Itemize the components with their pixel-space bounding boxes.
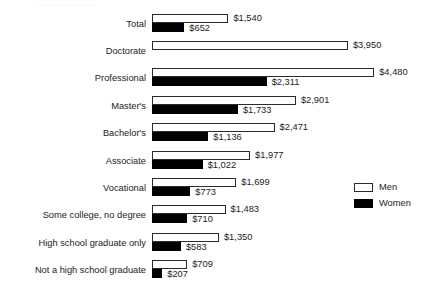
legend-item-women: Women xyxy=(354,198,428,211)
category-label: Vocational xyxy=(0,183,146,194)
chart-legend: Men Women xyxy=(354,182,428,214)
bar-row: High school graduate only$1,350$583 xyxy=(0,233,430,257)
category-label: Associate xyxy=(0,156,146,167)
bar-value-men: $1,977 xyxy=(255,150,283,160)
bar-value-women: $1,136 xyxy=(213,132,241,142)
bar-men xyxy=(152,123,275,132)
legend-item-men: Men xyxy=(354,182,428,195)
bar-row: Bachelor's$2,471$1,136 xyxy=(0,123,430,147)
bar-women xyxy=(152,77,267,86)
category-label: Total xyxy=(0,19,146,30)
bar-women xyxy=(152,187,190,196)
bar-value-men: $2,901 xyxy=(301,95,329,105)
bar-row: Professional$4,480$2,311 xyxy=(0,68,430,92)
bar-value-women: $652 xyxy=(189,23,210,33)
bar-value-women: $710 xyxy=(192,214,213,224)
bar-value-women: $1,022 xyxy=(208,160,236,170)
bar-row: Not a high school graduate$709$207 xyxy=(0,260,430,284)
category-label: Some college, no degree xyxy=(0,210,146,221)
bar-women xyxy=(152,269,162,278)
bar-value-men: $1,540 xyxy=(233,13,261,23)
bar-value-men: $2,471 xyxy=(280,122,308,132)
bar-value-women: $207 xyxy=(167,269,188,279)
bar-row: Master's$2,901$1,733 xyxy=(0,96,430,120)
bar-men xyxy=(152,233,219,242)
legend-swatch-women-icon xyxy=(354,199,373,208)
bar-men xyxy=(152,151,250,160)
legend-swatch-men-icon xyxy=(354,183,373,192)
bar-women xyxy=(152,23,184,32)
bar-men xyxy=(152,205,226,214)
bar-men xyxy=(152,260,187,269)
bar-value-women: $1,733 xyxy=(243,105,271,115)
legend-label-women: Women xyxy=(379,198,411,209)
bar-men xyxy=(152,41,348,50)
bar-women xyxy=(152,242,181,251)
bar-value-men: $1,483 xyxy=(231,204,259,214)
bar-row: Doctorate$3,950 xyxy=(0,41,430,65)
bar-men xyxy=(152,178,236,187)
bar-men xyxy=(152,96,296,105)
category-label: Master's xyxy=(0,101,146,112)
bar-women xyxy=(152,214,187,223)
bar-value-women: $2,311 xyxy=(272,77,300,87)
category-label: Professional xyxy=(0,73,146,84)
bar-row: Associate$1,977$1,022 xyxy=(0,151,430,175)
category-label: High school graduate only xyxy=(0,238,146,249)
bar-women xyxy=(152,105,238,114)
bar-value-men: $709 xyxy=(192,259,213,269)
bar-men xyxy=(152,14,228,23)
bar-value-women: $583 xyxy=(186,242,207,252)
category-label: Bachelor's xyxy=(0,128,146,139)
category-label: Not a high school graduate xyxy=(0,265,146,276)
category-label: Doctorate xyxy=(0,46,146,57)
bar-chart-plot: Total$1,540$652Doctorate$3,950Profession… xyxy=(0,0,430,289)
bar-men xyxy=(152,68,374,77)
bar-value-men: $1,350 xyxy=(224,232,252,242)
bar-value-women: $773 xyxy=(195,187,216,197)
bar-value-men: $4,480 xyxy=(379,67,407,77)
legend-label-men: Men xyxy=(379,182,397,193)
bar-women xyxy=(152,132,208,141)
bar-women xyxy=(152,160,203,169)
bar-row: Total$1,540$652 xyxy=(0,14,430,38)
bar-value-men: $3,950 xyxy=(353,40,381,50)
bar-value-men: $1,699 xyxy=(241,177,269,187)
